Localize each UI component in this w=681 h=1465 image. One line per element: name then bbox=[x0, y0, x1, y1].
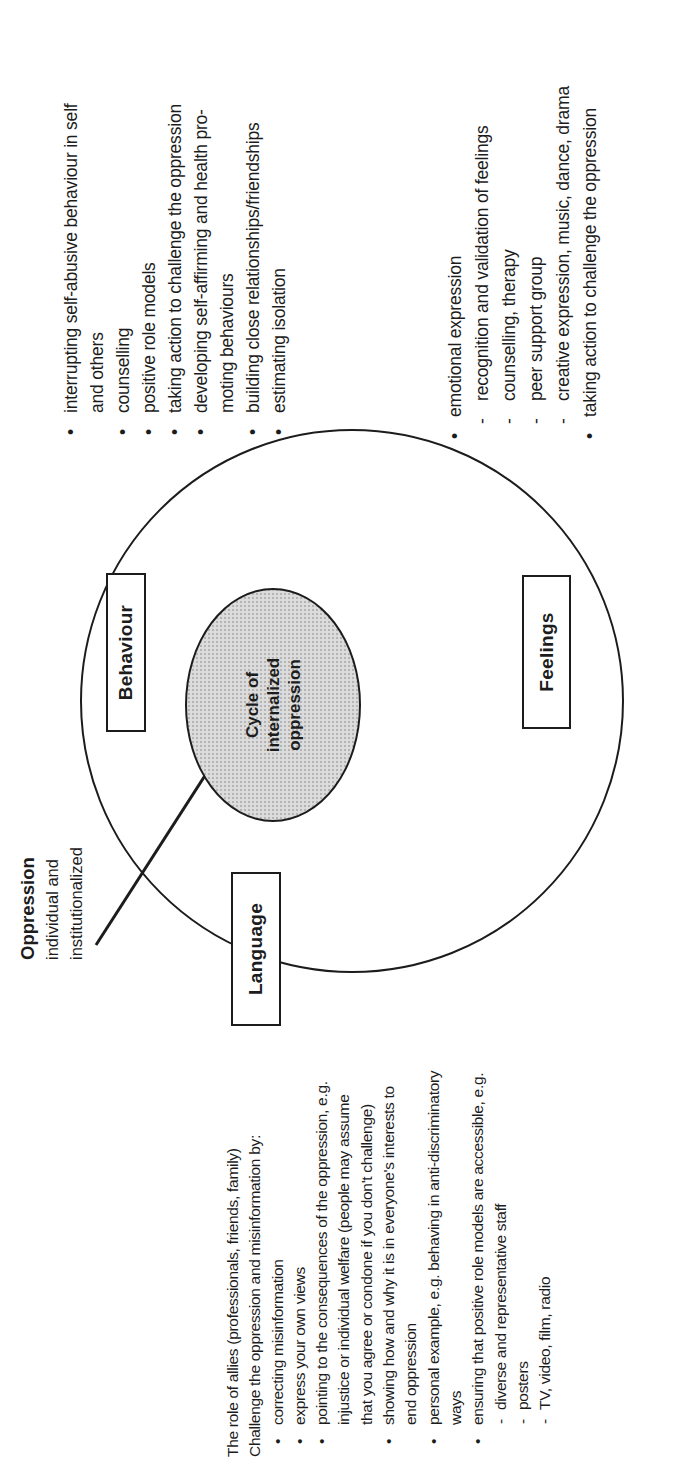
center-label-line: Cycle of bbox=[242, 672, 263, 738]
node-behaviour-label: Behaviour bbox=[115, 605, 137, 701]
cycle-center-ellipse: Cycle of internalized oppression bbox=[185, 588, 361, 822]
rotated-diagram-page: Cycle of internalized oppression Behavio… bbox=[0, 0, 681, 1465]
list-line-text: moting behaviours bbox=[217, 273, 237, 413]
list-line: -peer support group bbox=[523, 86, 550, 439]
list-line-text: taking action to challenge the oppressio… bbox=[580, 108, 600, 417]
list-line: •taking action to challenge the oppressi… bbox=[577, 86, 604, 439]
dash-marker: - bbox=[490, 1419, 512, 1424]
oppression-label-line: individual and bbox=[40, 847, 64, 960]
scanned-page: Cycle of internalized oppression Behavio… bbox=[0, 0, 681, 1465]
bullet-marker: • bbox=[467, 1439, 489, 1444]
list-line: moting behaviours bbox=[214, 104, 240, 436]
list-line: -creative expression, music, dance, dram… bbox=[550, 86, 577, 439]
list-line: •pointing to the consequences of the opp… bbox=[311, 1071, 333, 1457]
behaviour-interventions-list: •interrupting self-abusive behaviour in … bbox=[58, 104, 292, 436]
list-line-text: Challenge the oppression and misinformat… bbox=[246, 1135, 263, 1457]
node-language-label: Language bbox=[245, 903, 267, 995]
list-line-text: creative expression, music, dance, drama bbox=[553, 86, 573, 401]
bullet-marker: • bbox=[162, 429, 188, 435]
list-line-text: counselling bbox=[113, 328, 133, 413]
bullet-marker: • bbox=[378, 1439, 400, 1444]
bullet-marker: • bbox=[136, 429, 162, 435]
list-line: •emotional expression bbox=[442, 86, 469, 439]
list-line: •building close relationships/friendship… bbox=[240, 104, 266, 436]
node-behaviour: Behaviour bbox=[106, 573, 146, 732]
list-line: that you agree or condone if you don't c… bbox=[356, 1071, 378, 1457]
list-line: •estimating isolation bbox=[266, 104, 292, 436]
list-line: injustice or individual welfare (people … bbox=[333, 1071, 355, 1457]
list-line-text: showing how and why it is in everyone's … bbox=[380, 1086, 397, 1425]
list-line-text: estimating isolation bbox=[269, 268, 289, 413]
list-line: •correcting misinformation bbox=[267, 1071, 289, 1457]
list-line-text: diverse and representative staff bbox=[492, 1204, 509, 1410]
list-line: •showing how and why it is in everyone's… bbox=[378, 1071, 400, 1457]
center-label-line: internalized bbox=[263, 658, 284, 752]
list-line: ways bbox=[445, 1071, 467, 1457]
list-line-text: developing self-affirming and health pro… bbox=[191, 109, 211, 413]
list-line-text: correcting misinformation bbox=[269, 1259, 286, 1425]
list-line: •personal example, e.g. behaving in anti… bbox=[423, 1071, 445, 1457]
node-language: Language bbox=[231, 872, 281, 1026]
list-line-text: and others bbox=[87, 332, 107, 413]
list-line: •taking action to challenge the oppressi… bbox=[162, 104, 188, 436]
bullet-marker: • bbox=[188, 429, 214, 435]
dash-marker: - bbox=[534, 1419, 556, 1424]
list-line: •interrupting self-abusive behaviour in … bbox=[58, 104, 84, 436]
list-line-text: posters bbox=[514, 1361, 531, 1410]
bullet-marker: • bbox=[423, 1439, 445, 1444]
dash-marker: - bbox=[523, 418, 550, 424]
list-line: -diverse and representative staff bbox=[490, 1071, 512, 1457]
list-line-text: ensuring that positive role models are a… bbox=[469, 1073, 486, 1425]
list-line: •express your own views bbox=[289, 1071, 311, 1457]
list-line-text: express your own views bbox=[291, 1267, 308, 1425]
list-line-text: interrupting self-abusive behaviour in s… bbox=[61, 104, 81, 414]
dash-marker: - bbox=[512, 1419, 534, 1424]
dash-marker: - bbox=[550, 418, 577, 424]
bullet-marker: • bbox=[240, 429, 266, 435]
list-line-text: recognition and validation of feelings bbox=[472, 125, 492, 401]
list-line: •positive role models bbox=[136, 104, 162, 436]
list-line-text: positive role models bbox=[139, 262, 159, 413]
list-line-text: building close relationships/friendships bbox=[243, 122, 263, 413]
list-line: -posters bbox=[512, 1071, 534, 1457]
node-feelings: Feelings bbox=[522, 575, 571, 729]
oppression-label-line: institutionalized bbox=[64, 847, 88, 960]
oppression-label: Oppression individual and institutionali… bbox=[16, 847, 88, 960]
feelings-interventions-list: •emotional expression-recognition and va… bbox=[442, 86, 604, 439]
list-line: -counselling, therapy bbox=[496, 86, 523, 439]
list-line: •counselling bbox=[110, 104, 136, 436]
list-line: end oppression bbox=[400, 1071, 422, 1457]
list-line-text: pointing to the consequences of the oppr… bbox=[313, 1081, 330, 1425]
bullet-marker: • bbox=[110, 429, 136, 435]
bullet-marker: • bbox=[442, 433, 469, 439]
list-line-text: TV, video, film, radio bbox=[536, 1277, 553, 1410]
list-line: •ensuring that positive role models are … bbox=[467, 1071, 489, 1457]
bullet-marker: • bbox=[311, 1439, 333, 1444]
dash-marker: - bbox=[496, 418, 523, 424]
list-line-text: end oppression bbox=[402, 1323, 419, 1425]
list-line-text: taking action to challenge the oppressio… bbox=[165, 104, 185, 413]
list-line-text: peer support group bbox=[526, 257, 546, 401]
list-line-text: personal example, e.g. behaving in anti-… bbox=[425, 1071, 442, 1425]
node-feelings-label: Feelings bbox=[536, 612, 558, 691]
oppression-label-title: Oppression bbox=[16, 847, 40, 960]
list-line: Challenge the oppression and misinformat… bbox=[244, 1071, 266, 1457]
bullet-marker: • bbox=[266, 429, 292, 435]
list-line-text: ways bbox=[447, 1391, 464, 1425]
center-label-line: oppression bbox=[284, 659, 305, 751]
allies-text-block: The role of allies (professionals, frien… bbox=[222, 1071, 556, 1457]
bullet-marker: • bbox=[577, 433, 604, 439]
list-line: •developing self-affirming and health pr… bbox=[188, 104, 214, 436]
bullet-marker: • bbox=[289, 1439, 311, 1444]
list-line-text: injustice or individual welfare (people … bbox=[335, 1095, 352, 1425]
list-line-text: emotional expression bbox=[445, 256, 465, 417]
list-line-text: counselling, therapy bbox=[499, 249, 519, 401]
list-line: and others bbox=[84, 104, 110, 436]
dash-marker: - bbox=[469, 418, 496, 424]
bullet-marker: • bbox=[58, 429, 84, 435]
list-line: The role of allies (professionals, frien… bbox=[222, 1071, 244, 1457]
list-line: -TV, video, film, radio bbox=[534, 1071, 556, 1457]
bullet-marker: • bbox=[267, 1439, 289, 1444]
list-line-text: The role of allies (professionals, frien… bbox=[224, 1148, 241, 1457]
list-line-text: that you agree or condone if you don't c… bbox=[358, 1104, 375, 1425]
